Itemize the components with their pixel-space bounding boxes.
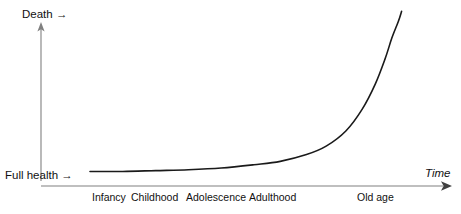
y-axis-low-arrow-icon: → (61, 169, 73, 181)
x-axis-tick-label: Childhood (131, 192, 178, 203)
x-axis-tick-label: Adolescence (186, 192, 246, 203)
x-axis (41, 181, 452, 191)
chart-canvas (0, 0, 461, 214)
health-decline-curve (90, 11, 402, 171)
y-axis-high-label-text: Death (22, 8, 53, 20)
chart-figure: Death → Full health → Time Infancy Child… (0, 0, 461, 214)
y-axis-low-label-text: Full health (5, 169, 58, 181)
x-axis-tick-label: Old age (357, 192, 394, 203)
x-axis-tick-label: Adulthood (249, 192, 296, 203)
y-axis-high-arrow-icon: → (56, 8, 68, 20)
y-axis (37, 22, 44, 181)
y-axis-low-label: Full health → (5, 170, 73, 182)
y-axis-high-label: Death → (22, 9, 67, 21)
x-axis-label: Time (425, 168, 450, 180)
x-axis-tick-label: Infancy (92, 192, 126, 203)
